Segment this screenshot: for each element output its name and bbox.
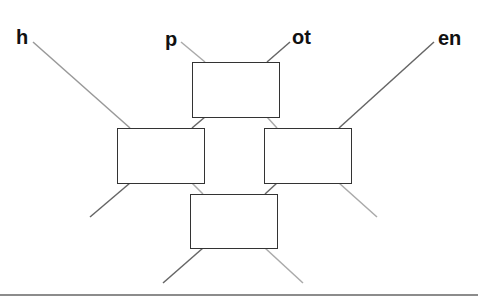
connector-left-box-tail: [90, 183, 130, 217]
bottom-answer-box[interactable]: [190, 194, 278, 249]
connector-right-to-bottom-box: [265, 183, 277, 194]
connector-ot-to-top-box: [267, 42, 290, 62]
label-ot: ot: [292, 27, 311, 47]
connector-p-to-top-box: [181, 42, 205, 62]
connector-top-to-left-box: [192, 117, 205, 128]
connector-left-to-bottom-box: [192, 183, 203, 194]
connector-bottom-box-right-tail: [265, 248, 303, 283]
connector-top-to-right-box: [267, 117, 277, 128]
label-en: en: [438, 28, 461, 48]
connector-h-to-left-box: [33, 42, 130, 128]
top-answer-box[interactable]: [192, 62, 280, 118]
connector-right-box-tail: [339, 183, 377, 217]
connector-lines: [0, 0, 478, 298]
word-diagram: h p ot en: [0, 0, 478, 298]
connector-bottom-box-left-tail: [163, 248, 203, 283]
connector-en-to-right-box: [339, 42, 434, 128]
right-answer-box[interactable]: [264, 128, 352, 184]
label-p: p: [165, 29, 177, 49]
left-answer-box[interactable]: [117, 128, 205, 184]
label-h: h: [16, 27, 28, 47]
